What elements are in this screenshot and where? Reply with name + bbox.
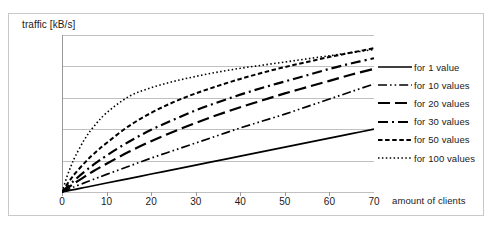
legend-line-swatch — [378, 98, 412, 108]
legend-item-label: for 50 values — [414, 134, 470, 145]
y-axis-tick-labels: 0.050.0100.0150.0200.0250.0 — [0, 0, 58, 229]
x-axis-tick-label: 30 — [190, 196, 201, 207]
chart-legend: for 1 valuefor 10 valuesfor 20 valuesfor… — [378, 58, 490, 167]
legend-item-label: for 30 values — [414, 116, 470, 127]
x-axis-title: amount of clients — [392, 195, 466, 206]
x-axis-tick-label: 0 — [59, 196, 65, 207]
x-axis-tick-label: 70 — [368, 196, 379, 207]
x-axis-tick-label: 50 — [279, 196, 290, 207]
legend-item[interactable]: for 30 values — [378, 113, 490, 131]
plot-svg — [62, 34, 374, 197]
legend-line-swatch — [378, 135, 412, 145]
plot-area — [62, 35, 374, 192]
chart-screenshot: traffic [kB/s] 0.050.0100.0150.0200.0250… — [0, 0, 494, 229]
series-line — [62, 49, 374, 192]
x-axis-tick-label: 60 — [324, 196, 335, 207]
legend-line-swatch — [378, 62, 412, 72]
x-axis-tick-label: 10 — [101, 196, 112, 207]
legend-item[interactable]: for 10 values — [378, 76, 490, 94]
series-line — [62, 129, 374, 192]
legend-item-label: for 1 value — [414, 62, 459, 73]
legend-item-label: for 20 values — [414, 98, 470, 109]
legend-item-label: for 10 values — [414, 80, 470, 91]
x-axis-tick-label: 20 — [146, 196, 157, 207]
legend-line-swatch — [378, 153, 412, 163]
legend-line-swatch — [378, 117, 412, 127]
series-line — [62, 58, 374, 192]
legend-item[interactable]: for 50 values — [378, 131, 490, 149]
legend-item-label: for 100 values — [414, 153, 475, 164]
x-axis-tick-label: 40 — [235, 196, 246, 207]
legend-item[interactable]: for 100 values — [378, 149, 490, 167]
legend-item[interactable]: for 20 values — [378, 94, 490, 112]
legend-item[interactable]: for 1 value — [378, 58, 490, 76]
legend-line-swatch — [378, 80, 412, 90]
